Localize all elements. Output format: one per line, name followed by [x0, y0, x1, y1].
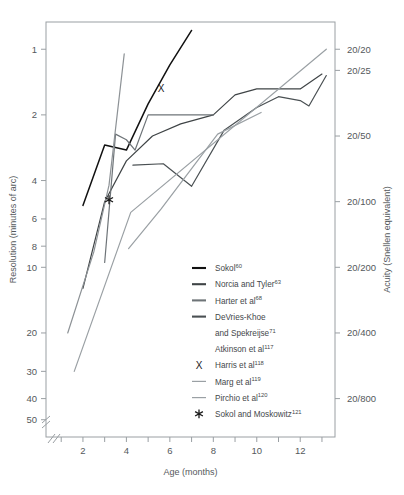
right-axis-title: Acuity (Snellen equivalent): [382, 186, 392, 293]
xtick-label: 12: [295, 445, 306, 456]
ytick-label-right: 20/50: [347, 130, 371, 141]
xtick-label: 6: [167, 445, 172, 456]
ytick-label-left: 40: [26, 393, 37, 404]
xtick-label: 10: [251, 445, 262, 456]
ytick-label-left: 30: [26, 366, 37, 377]
acuity-development-chart: 12468102030405020/2020/2520/5020/10020/2…: [0, 0, 404, 495]
legend-label-sokol-and-moskowitz: Sokol and Moskowitz121: [215, 409, 302, 419]
xtick-label: 4: [124, 445, 129, 456]
series-group: X: [68, 30, 327, 371]
legend-label-harris-et-al: Harris et al118: [215, 360, 264, 370]
ytick-label-left: 2: [32, 109, 37, 120]
ytick-label-left: 50: [26, 414, 37, 425]
ytick-label-right: 20/400: [347, 327, 376, 338]
series-line-atkinson-et-al: [68, 54, 125, 333]
legend-label-harter-et-al: Harter et al68: [215, 295, 262, 305]
bottom-axis-title: Age (months): [163, 467, 217, 477]
legend-label-sokol: Sokol60: [215, 263, 242, 273]
chart-canvas: 12468102030405020/2020/2520/5020/10020/2…: [0, 0, 404, 495]
ytick-label-right: 20/20: [347, 44, 371, 55]
series-line-sokol: [83, 30, 192, 205]
series-line-norcia-and-tyler: [83, 74, 322, 288]
legend-swatch-asterisk-sokol-and-moskowitz: [195, 409, 203, 418]
left-axis-title: Resolution (minutes of arc): [8, 176, 18, 284]
ytick-label-left: 6: [32, 213, 37, 224]
legend: Sokol60Norcia and Tyler63Harter et al68D…: [192, 263, 302, 419]
marker-x-harris-et-al: X: [158, 83, 165, 94]
plot-frame: [46, 22, 335, 437]
legend-label-marg-et-al: Marg et al119: [215, 376, 261, 386]
legend-label-norcia-and-tyler: Norcia and Tyler63: [215, 279, 281, 289]
ytick-label-left: 10: [26, 262, 37, 273]
legend-label-atkinson-et-al: Atkinson et al117: [215, 344, 273, 354]
legend-label-pirchio-et-al: Pirchio et al120: [215, 392, 267, 402]
ytick-label-right: 20/25: [347, 65, 371, 76]
xtick-label: 8: [211, 445, 216, 456]
series-line-marg-et-al: [74, 49, 326, 371]
ytick-label-left: 8: [32, 241, 37, 252]
legend-label-devries-khoe: DeVries-Khoe: [215, 313, 266, 322]
xtick-label: 2: [80, 445, 85, 456]
ytick-label-left: 20: [26, 327, 37, 338]
ytick-label-left: 1: [32, 44, 37, 55]
legend-label-devries-khoe-cont: and Spekreijse71: [215, 328, 276, 338]
ytick-label-right: 20/100: [347, 196, 376, 207]
ytick-label-right: 20/200: [347, 262, 376, 273]
legend-swatch-x-harris-et-al: X: [196, 360, 203, 371]
x-axis-break-mark: [48, 434, 60, 443]
ytick-label-left: 4: [32, 175, 37, 186]
ytick-label-right: 20/800: [347, 393, 376, 404]
